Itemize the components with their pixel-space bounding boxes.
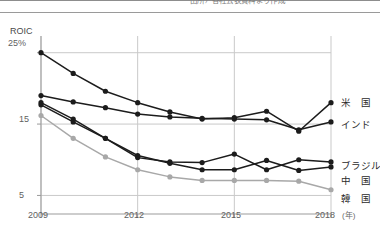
datapoint-korea-2009	[38, 113, 43, 118]
datapoint-brazil-2015	[232, 151, 237, 156]
datapoint-korea-2016	[264, 178, 269, 183]
datapoint-india-2009	[38, 93, 43, 98]
datapoint-brazil-2017	[296, 157, 301, 162]
datapoint-china-2015	[232, 167, 237, 172]
x-tick-2018: 2018	[315, 211, 335, 220]
datapoint-usa-2011	[103, 89, 108, 94]
datapoint-india-2016	[264, 117, 269, 122]
datapoint-korea-2012	[135, 167, 140, 172]
datapoint-usa-2010	[71, 71, 76, 76]
datapoint-usa-2016	[264, 109, 269, 114]
legend-item-china: 中 国	[341, 176, 371, 186]
x-axis-unit: (年)	[342, 212, 355, 220]
datapoint-korea-2010	[71, 136, 76, 141]
series-line-brazil	[41, 103, 331, 170]
datapoint-korea-2018	[328, 187, 333, 192]
y-tick-15: 15	[19, 115, 29, 124]
legend-item-usa: 米 国	[341, 98, 371, 108]
header-source-note-clip: 出所）各社公表資料より作成	[190, 0, 380, 11]
datapoint-china-2011	[103, 136, 108, 141]
datapoint-brazil-2018	[328, 159, 333, 164]
datapoint-india-2012	[135, 111, 140, 116]
datapoint-india-2015	[232, 116, 237, 121]
legend-item-korea: 韓 国	[341, 194, 371, 204]
datapoint-india-2017	[296, 127, 301, 132]
datapoint-korea-2013	[167, 174, 172, 179]
datapoint-china-2014	[200, 167, 205, 172]
datapoint-china-2017	[296, 168, 301, 173]
datapoint-korea-2017	[296, 179, 301, 184]
datapoint-china-2009	[38, 102, 43, 107]
legend-item-india: インド	[341, 120, 371, 130]
datapoint-brazil-2016	[264, 167, 269, 172]
datapoint-china-2010	[71, 119, 76, 124]
datapoint-usa-2018	[328, 100, 333, 105]
roic-line-chart	[0, 14, 380, 240]
datapoint-usa-2013	[167, 109, 172, 114]
legend-item-brazil: ブラジル	[341, 161, 380, 171]
y-tick-5: 5	[19, 191, 24, 200]
datapoint-india-2013	[167, 114, 172, 119]
datapoint-korea-2011	[103, 154, 108, 159]
datapoint-india-2010	[71, 99, 76, 104]
datapoint-usa-2012	[135, 100, 140, 105]
y-axis-title: ROIC	[10, 27, 33, 36]
series-usa	[38, 50, 333, 134]
datapoint-china-2016	[264, 158, 269, 163]
datapoint-usa-2009	[38, 50, 43, 55]
series-line-usa	[41, 53, 331, 131]
datapoint-korea-2014	[200, 178, 205, 183]
x-tick-2012: 2012	[124, 211, 144, 220]
datapoint-india-2011	[103, 105, 108, 110]
chart-plot-area: ROIC 25% 15 5 2009 2012 2015 2018 (年) 米 …	[0, 14, 380, 240]
datapoint-india-2018	[328, 119, 333, 124]
datapoint-china-2018	[328, 164, 333, 169]
x-tick-2015: 2015	[221, 211, 241, 220]
datapoint-brazil-2014	[200, 160, 205, 165]
chart-screenshot: 出所）各社公表資料より作成 ROIC 25% 15 5 2009 2012 20…	[0, 0, 380, 240]
header-source-note: 出所）各社公表資料より作成	[190, 0, 285, 5]
y-tick-25: 25%	[8, 39, 26, 48]
datapoint-china-2012	[135, 153, 140, 158]
x-tick-2009: 2009	[28, 211, 48, 220]
datapoint-china-2013	[167, 161, 172, 166]
series-line-china	[41, 105, 331, 171]
datapoint-india-2014	[200, 116, 205, 121]
header-rule-bottom	[0, 12, 380, 13]
series-brazil	[38, 100, 333, 172]
datapoint-korea-2015	[232, 178, 237, 183]
